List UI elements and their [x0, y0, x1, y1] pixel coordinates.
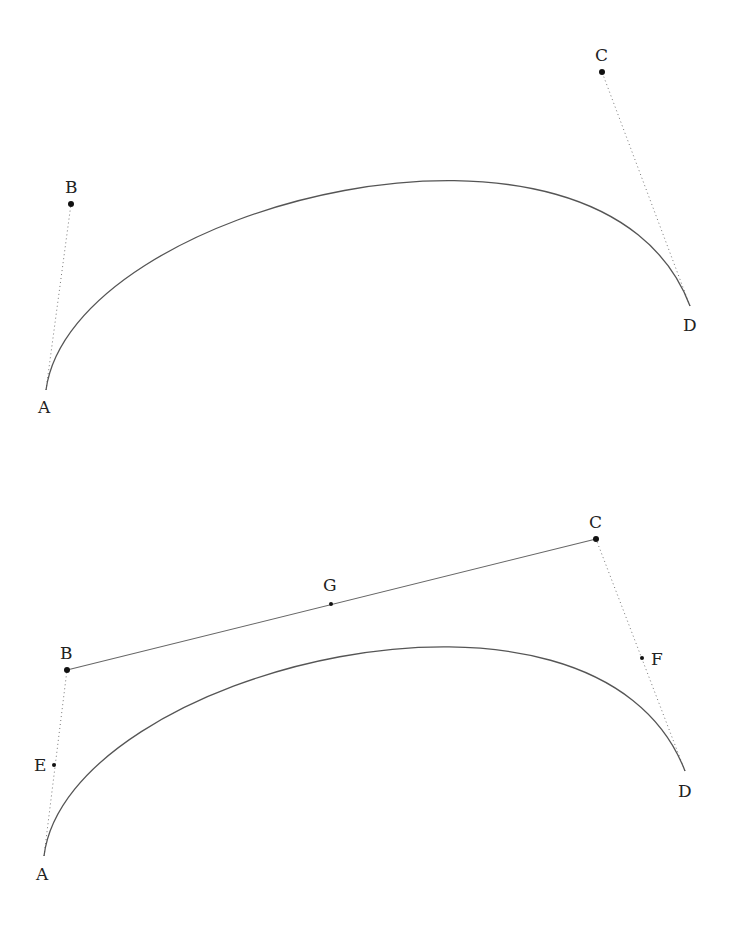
label-d: D — [683, 315, 697, 335]
top-panel: A B C D — [37, 45, 697, 417]
midpoint-g — [329, 602, 333, 606]
midpoint-e — [52, 763, 56, 767]
label-e: E — [34, 755, 46, 775]
control-line-dc — [602, 72, 690, 306]
bottom-panel: A B C D E F G — [34, 512, 692, 884]
label-g: G — [323, 575, 337, 595]
label-c: C — [589, 512, 602, 532]
control-line-ab — [44, 670, 67, 856]
label-c: C — [595, 45, 608, 65]
label-b: B — [60, 643, 73, 663]
control-point-c — [599, 69, 605, 75]
control-point-c — [593, 536, 599, 542]
midpoint-f — [640, 656, 644, 660]
bezier-diagram: A B C D A B C D E F G — [0, 0, 746, 932]
label-a: A — [37, 397, 51, 417]
control-point-b — [68, 201, 74, 207]
control-line-dc — [596, 539, 685, 771]
label-a: A — [35, 864, 49, 884]
bezier-curve — [46, 181, 690, 390]
label-b: B — [65, 177, 78, 197]
control-point-b — [64, 667, 70, 673]
label-d: D — [678, 781, 692, 801]
label-f: F — [651, 649, 663, 669]
bezier-curve — [44, 647, 685, 856]
control-line-ab — [46, 204, 71, 390]
